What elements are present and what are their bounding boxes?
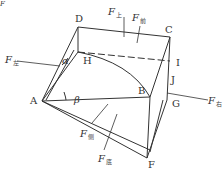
- label-H: H: [83, 55, 92, 66]
- edge-CG: [167, 37, 170, 100]
- force-side-label: F侧: [79, 128, 94, 141]
- label-alpha: α: [62, 55, 69, 66]
- edge-HA: [42, 52, 78, 101]
- force-left-line: [17, 61, 60, 66]
- label-A: A: [29, 95, 38, 106]
- force-top-label: F上: [107, 6, 122, 18]
- label-D: D: [75, 13, 83, 24]
- force-side-line: [92, 104, 108, 123]
- label-I: I: [176, 57, 180, 68]
- edge-HI-dashed: [78, 52, 170, 61]
- edge-GF: [147, 100, 167, 158]
- label-F: F: [148, 159, 155, 170]
- box-edges: [42, 27, 170, 158]
- force-right-label: F右: [207, 95, 222, 108]
- force-front-label: F前: [131, 12, 146, 25]
- edge-CB: [150, 37, 170, 97]
- force-front-line: [137, 26, 140, 43]
- force-bottom-label: F底: [97, 153, 112, 166]
- beta-arc: [64, 92, 66, 100]
- label-G: G: [172, 98, 180, 109]
- edge-inner-left: [46, 50, 74, 100]
- corner-mark: F: [0, 0, 6, 8]
- label-J: J: [170, 74, 175, 85]
- label-C: C: [165, 24, 173, 35]
- wedge-force-diagram: D C H I J G B A F α β F上 F前 F左 F右 F侧 F底 …: [0, 0, 223, 177]
- force-left-label: F左: [4, 54, 19, 66]
- force-lines: [17, 17, 208, 150]
- force-bottom-line: [104, 114, 117, 150]
- edge-DA: [42, 27, 78, 101]
- edge-AF: [42, 101, 147, 158]
- edge-GF-inner: [150, 100, 163, 152]
- edge-AB: [42, 97, 150, 101]
- label-B: B: [138, 85, 145, 96]
- edge-AF-inner: [42, 101, 150, 150]
- label-beta: β: [73, 94, 80, 105]
